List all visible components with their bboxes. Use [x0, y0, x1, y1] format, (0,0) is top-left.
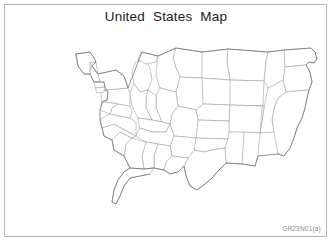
state-iowa — [176, 77, 203, 110]
state-kansas — [196, 120, 229, 139]
state-washington — [284, 48, 317, 67]
item-code-label: GR23N01(a) — [282, 225, 321, 233]
state-north-dakota — [202, 49, 230, 80]
state-connecticut — [96, 87, 105, 93]
state-oregon — [283, 65, 312, 92]
state-montana — [227, 49, 268, 81]
state-south-dakota — [202, 78, 230, 105]
us-map-svg — [6, 32, 325, 212]
state-wyoming — [230, 80, 264, 106]
state-boundaries — [76, 48, 317, 204]
state-nebraska — [196, 104, 230, 121]
state-arizona — [242, 132, 260, 166]
page-title: United States Map — [0, 9, 332, 25]
state-colorado — [229, 105, 263, 133]
map-page: United States Map — [0, 0, 332, 243]
us-map-figure — [6, 32, 325, 212]
